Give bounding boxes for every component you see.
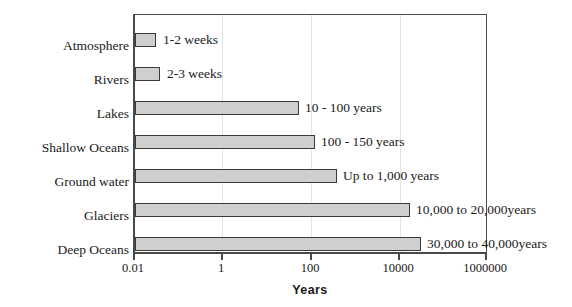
bar-value-shallow-oceans: 100 - 150 years <box>321 132 405 151</box>
bar-glaciers <box>135 203 410 217</box>
category-label-glaciers: Glaciers <box>3 206 129 225</box>
bar-shallow-oceans <box>135 135 315 149</box>
x-axis-ticks: 0.01 1 100 10000 1000000 <box>133 254 487 262</box>
category-label-deep-oceans: Deep Oceans <box>3 240 129 259</box>
category-label-lakes: Lakes <box>3 104 129 123</box>
category-label-ground-water: Ground water <box>3 172 129 191</box>
bar-lakes <box>135 101 299 115</box>
category-label-shallow-oceans: Shallow Oceans <box>3 138 129 157</box>
tick-label-3: 10000 <box>382 260 413 276</box>
tick-label-0: 0.01 <box>122 260 144 276</box>
bar-row-shallow-oceans: 100 - 150 years <box>135 125 486 159</box>
bar-ground-water <box>135 169 337 183</box>
bar-rivers <box>135 67 160 81</box>
tick-label-2: 100 <box>301 260 320 276</box>
bar-value-atmosphere: 1-2 weeks <box>163 30 218 49</box>
bar-row-atmosphere: 1-2 weeks <box>135 23 486 57</box>
category-axis-labels: Atmosphere Rivers Lakes Shallow Oceans G… <box>0 14 129 254</box>
bar-value-ground-water: Up to 1,000 years <box>343 166 439 185</box>
bar-value-glaciers: 10,000 to 20,000years <box>416 200 536 219</box>
bar-value-deep-oceans: 30,000 to 40,000years <box>427 234 547 253</box>
bar-row-rivers: 2-3 weeks <box>135 57 486 91</box>
bar-row-glaciers: 10,000 to 20,000years <box>135 193 486 227</box>
category-label-rivers: Rivers <box>3 70 129 89</box>
bar-deep-oceans <box>135 237 421 251</box>
plot-area: 1-2 weeks 2-3 weeks 10 - 100 years 100 -… <box>133 14 487 254</box>
x-axis-title: Years <box>133 283 487 297</box>
bar-value-lakes: 10 - 100 years <box>305 98 382 117</box>
category-label-atmosphere: Atmosphere <box>3 36 129 55</box>
bar-row-lakes: 10 - 100 years <box>135 91 486 125</box>
bar-atmosphere <box>135 33 156 47</box>
chart-container: Atmosphere Rivers Lakes Shallow Oceans G… <box>0 0 572 307</box>
tick-label-4: 1000000 <box>463 260 507 276</box>
bar-row-ground-water: Up to 1,000 years <box>135 159 486 193</box>
bar-value-rivers: 2-3 weeks <box>167 64 222 83</box>
tick-label-1: 1 <box>218 260 224 276</box>
